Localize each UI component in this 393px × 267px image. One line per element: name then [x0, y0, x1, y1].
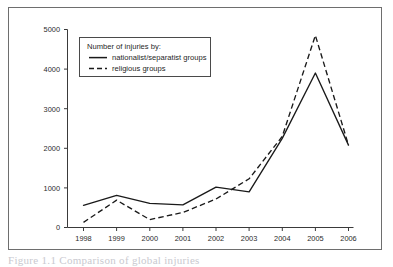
y-tick-group: 0 1000 2000 3000 4000 5000 [44, 25, 68, 232]
x-tick-label-1998: 1998 [75, 234, 91, 243]
x-tick-label-2006: 2006 [340, 234, 356, 243]
figure-caption-strip: Figure 1.1 Comparison of global injuries [8, 254, 382, 266]
x-tick-label-2000: 2000 [142, 234, 158, 243]
y-tick-label-3000: 3000 [44, 105, 60, 114]
y-tick-label-1000: 1000 [44, 184, 60, 193]
legend-title: Number of injuries by: [87, 42, 161, 51]
figure-caption-text: Figure 1.1 Comparison of global injuries [8, 254, 382, 266]
y-tick-label-2000: 2000 [44, 144, 60, 153]
x-tick-label-2001: 2001 [175, 234, 191, 243]
series-line-nationalist-separatist-groups [84, 73, 349, 205]
legend-label-religious-groups: religious groups [112, 64, 166, 73]
chart-legend: Number of injuries by: nationalist/separ… [80, 38, 211, 77]
x-tick-label-2002: 2002 [208, 234, 224, 243]
x-tick-label-2003: 2003 [241, 234, 257, 243]
y-tick-label-5000: 5000 [44, 25, 60, 34]
x-tick-label-1999: 1999 [108, 234, 124, 243]
x-tick-label-2005: 2005 [307, 234, 323, 243]
y-tick-label-4000: 4000 [44, 65, 60, 74]
y-tick-label-0: 0 [56, 223, 60, 232]
x-tick-label-2004: 2004 [274, 234, 290, 243]
x-tick-group: 1998 1999 2000 2001 2002 2003 2004 2005 … [75, 228, 356, 243]
legend-label-nationalist-separatist-groups: nationalist/separatist groups [112, 53, 207, 62]
figure-frame: 0 1000 2000 3000 4000 5000 1998 1999 200… [8, 7, 382, 250]
injuries-line-chart: 0 1000 2000 3000 4000 5000 1998 1999 200… [9, 8, 381, 249]
